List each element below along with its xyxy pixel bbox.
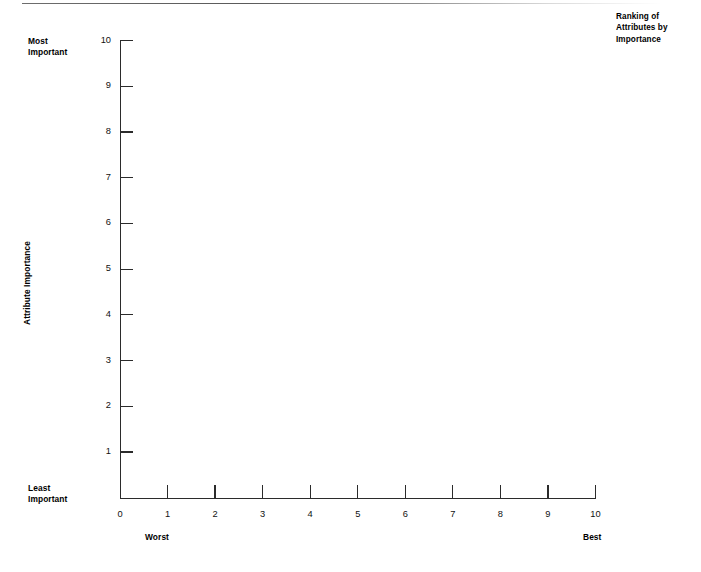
y-axis-tick-label-4: 4	[89, 309, 111, 319]
chart-page: Ranking of Attributes by Importance Attr…	[0, 0, 701, 572]
y-axis-tick-label-2: 2	[89, 400, 111, 410]
x-axis-left-annotation: Worst	[145, 532, 169, 542]
x-axis-tick-4	[310, 485, 311, 498]
x-axis-tick-label-8: 8	[488, 509, 512, 519]
y-axis-tick-label-9: 9	[89, 80, 111, 90]
x-axis-tick-label-10: 10	[584, 509, 608, 519]
y-axis-tick-10	[120, 40, 133, 41]
y-axis-tick-7	[120, 177, 133, 178]
x-axis-tick-5	[357, 485, 358, 498]
y-axis-tick-3	[120, 360, 133, 361]
y-axis-tick-4	[120, 314, 133, 315]
x-axis-tick-label-4: 4	[298, 509, 322, 519]
y-axis-tick-label-8: 8	[89, 126, 111, 136]
x-axis-tick-1	[167, 485, 168, 498]
y-axis-top-annotation-line-2: Important	[28, 47, 67, 58]
x-axis-tick-label-7: 7	[441, 509, 465, 519]
x-axis-tick-6	[405, 485, 406, 498]
x-axis-tick-label-9: 9	[536, 509, 560, 519]
plot-area[interactable]	[121, 41, 596, 498]
y-axis-top-annotation-line-1: Most	[28, 36, 67, 47]
x-axis-tick-label-1: 1	[156, 509, 180, 519]
x-axis-right-annotation: Best	[583, 532, 602, 542]
y-axis-tick-6	[120, 223, 133, 224]
y-axis-tick-label-3: 3	[89, 355, 111, 365]
y-axis-tick-1	[120, 451, 133, 452]
chart-title: Ranking of Attributes by Importance	[616, 11, 700, 45]
x-axis-tick-3	[262, 485, 263, 498]
x-axis-tick-label-2: 2	[203, 509, 227, 519]
y-axis-tick-label-1: 1	[89, 446, 111, 456]
y-axis-tick-label-7: 7	[89, 172, 111, 182]
x-axis-tick-7	[452, 485, 453, 498]
y-axis-tick-2	[120, 406, 133, 407]
y-axis-tick-label-5: 5	[89, 263, 111, 273]
y-axis-bottom-annotation-line-1: Least	[28, 483, 67, 494]
chart-title-line-2: Attributes by	[616, 22, 700, 33]
y-axis-tick-5	[120, 269, 133, 270]
x-axis-tick-9	[547, 485, 548, 498]
x-axis-tick-10	[595, 485, 596, 498]
x-axis-tick-label-6: 6	[393, 509, 417, 519]
chart-title-line-3: Importance	[616, 34, 700, 45]
chart-title-line-1: Ranking of	[616, 11, 700, 22]
header-divider-rule	[22, 3, 662, 4]
y-axis-tick-8	[120, 131, 133, 132]
y-axis-bottom-annotation-line-2: Important	[28, 494, 67, 505]
x-axis-tick-8	[500, 485, 501, 498]
x-axis-tick-label-5: 5	[346, 509, 370, 519]
y-axis-tick-label-10: 10	[89, 35, 111, 45]
x-axis-tick-2	[214, 485, 215, 498]
x-axis-tick-label-0: 0	[108, 509, 132, 519]
y-axis-top-annotation: Most Important	[28, 36, 67, 59]
y-axis-tick-9	[120, 86, 133, 87]
y-axis-tick-label-6: 6	[89, 217, 111, 227]
y-axis-bottom-annotation: Least Important	[28, 483, 67, 506]
x-axis-tick-label-3: 3	[251, 509, 275, 519]
